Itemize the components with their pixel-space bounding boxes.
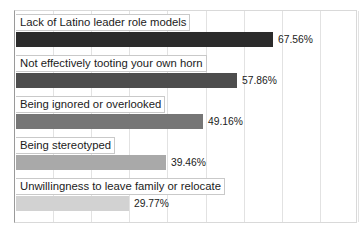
bar-row: Being ignored or overlooked49.16% [15,96,356,138]
bar-row: Lack of Latino leader role models67.56% [15,14,356,56]
bar [16,73,237,88]
bar-category-label-box: Lack of Latino leader role models [16,14,190,31]
bar-row: Unwillingness to leave family or relocat… [15,178,356,220]
bar-value-label: 57.86% [242,74,277,88]
bar-value-label: 39.46% [171,156,206,170]
bar-category-label: Being ignored or overlooked [20,99,161,110]
bar-category-label: Being stereotyped [20,140,111,151]
bar [16,155,166,170]
bar-value-label: 49.16% [208,115,243,129]
bar [16,32,273,47]
bar-value-label: 67.56% [278,33,313,47]
bar-row: Being stereotyped39.46% [15,137,356,179]
bar [16,196,129,211]
bar-value-label: 29.77% [134,197,169,211]
bar-row: Not effectively tooting your own horn57.… [15,55,356,97]
bar-category-label: Lack of Latino leader role models [20,17,186,28]
bar-category-label: Not effectively tooting your own horn [20,58,203,69]
bar-category-label-box: Not effectively tooting your own horn [16,55,207,72]
plot-area: Lack of Latino leader role models67.56%N… [14,10,357,223]
bar [16,114,203,129]
bar-chart: Lack of Latino leader role models67.56%N… [0,0,364,248]
bar-category-label-box: Being stereotyped [16,137,115,154]
bar-category-label-box: Being ignored or overlooked [16,96,165,113]
bar-category-label: Unwillingness to leave family or relocat… [20,181,221,192]
bar-category-label-box: Unwillingness to leave family or relocat… [16,178,225,195]
gridline-90 [358,11,359,222]
